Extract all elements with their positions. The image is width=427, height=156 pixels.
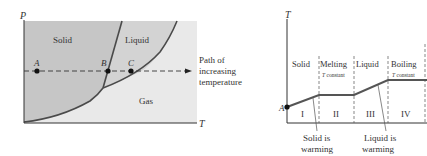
y-axis-label: P: [19, 10, 26, 21]
callout-solid-line2: warming: [301, 144, 333, 154]
phase-boiling: Boiling: [391, 59, 417, 69]
point-b-label: B: [101, 58, 107, 68]
segment-numeral-2: II: [333, 109, 339, 119]
phase-liquid: Liquid: [356, 59, 379, 69]
solid-label: Solid: [53, 35, 73, 45]
point-a: [34, 68, 39, 73]
segment-numeral-1: I: [301, 109, 304, 119]
segment-numeral-4: IV: [401, 109, 411, 119]
melting-note: T constant: [322, 72, 345, 78]
phase-solid: Solid: [292, 59, 311, 69]
point-b: [105, 68, 110, 73]
phase-diagram: P T Solid Liquid Gas A B C Path of incre…: [19, 10, 242, 129]
callout-line: [313, 98, 317, 131]
callout-solid-line1: Solid is: [303, 133, 331, 143]
boiling-note: T constant: [392, 72, 415, 78]
heating-curve: T Solid Melting Liquid Boiling T constan…: [278, 9, 427, 154]
path-label-line3: temperature: [199, 77, 242, 87]
liquid-label: Liquid: [125, 35, 149, 45]
callout-liquid-line2: warming: [362, 144, 394, 154]
point-c: [128, 68, 133, 73]
path-label-line2: increasing: [199, 66, 236, 76]
point-a-label: A: [33, 58, 40, 68]
point-a-label: A: [278, 103, 285, 113]
heating-curve-line: [287, 80, 427, 107]
point-c-label: C: [128, 58, 135, 68]
x-axis-label: T: [199, 118, 206, 129]
figure: P T Solid Liquid Gas A B C Path of incre…: [0, 0, 427, 156]
point-a: [284, 104, 289, 109]
gas-label: Gas: [139, 96, 153, 106]
callout-liquid-line1: Liquid is: [364, 133, 397, 143]
segment-numeral-3: III: [366, 109, 375, 119]
path-label-line1: Path of: [199, 55, 225, 65]
callout-line: [378, 85, 386, 131]
y-axis-label: T: [285, 9, 292, 20]
phase-melting: Melting: [320, 59, 348, 69]
